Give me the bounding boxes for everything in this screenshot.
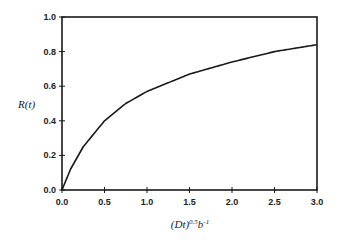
x-tick-label: 1.5 xyxy=(183,197,196,207)
data-curve xyxy=(62,45,317,190)
y-tick-label: 1.0 xyxy=(43,12,56,22)
y-tick-label: 0.6 xyxy=(43,81,56,91)
y-tick-label: 0.4 xyxy=(43,116,56,126)
y-tick-label: 0.0 xyxy=(43,185,56,195)
x-tick-label: 1.0 xyxy=(141,197,154,207)
y-tick-label: 0.8 xyxy=(43,47,56,57)
y-axis-label: R(t) xyxy=(17,98,35,111)
x-tick-label: 3.0 xyxy=(311,197,324,207)
x-axis-label: (Dt)0.5b-1 xyxy=(171,218,209,231)
x-tick-label: 0.0 xyxy=(56,197,69,207)
x-tick-label: 0.5 xyxy=(98,197,111,207)
x-tick-label: 2.5 xyxy=(268,197,281,207)
y-tick-label: 0.2 xyxy=(43,150,56,160)
x-tick-label: 2.0 xyxy=(226,197,239,207)
chart: 0.00.20.40.60.81.00.00.51.01.52.02.53.0R… xyxy=(0,0,343,247)
plot-frame xyxy=(62,17,317,190)
